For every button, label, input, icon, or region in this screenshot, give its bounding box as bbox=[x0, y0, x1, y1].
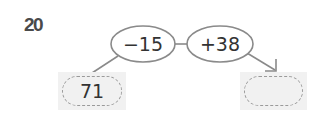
result-answer-box[interactable] bbox=[240, 72, 307, 110]
operation-label-1: −15 bbox=[111, 35, 175, 54]
result-value[interactable] bbox=[244, 76, 303, 106]
connector-line-start bbox=[92, 56, 118, 73]
arrow-line bbox=[247, 53, 275, 70]
start-value: 71 bbox=[62, 76, 122, 106]
operation-label-2: +38 bbox=[187, 35, 253, 54]
start-value-box: 71 bbox=[58, 72, 126, 110]
